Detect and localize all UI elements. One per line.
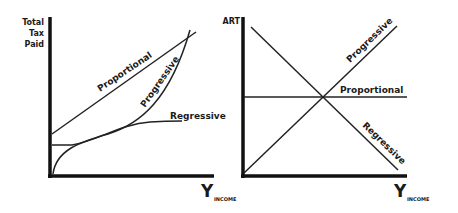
right-regressive-label: Regressive bbox=[361, 120, 408, 166]
right-progressive-line bbox=[244, 26, 397, 173]
right-ylabel: ART bbox=[223, 17, 241, 26]
left-regressive-curve bbox=[52, 121, 182, 145]
left-regressive-label: Regressive bbox=[170, 111, 226, 121]
left-ylabel-line2: Tax bbox=[29, 29, 45, 38]
left-ylabel-line1: Total bbox=[22, 18, 44, 27]
right-regressive-line bbox=[251, 27, 398, 170]
right-xlabel-y: Y bbox=[393, 181, 407, 201]
right-proportional-label: Proportional bbox=[340, 85, 403, 95]
left-xlabel-y: Y bbox=[200, 181, 214, 201]
left-ylabel-line3: Paid bbox=[24, 40, 44, 49]
right-xlabel-income: INCOME bbox=[407, 196, 430, 202]
right-chart: ART Progressive Proportional Regressive … bbox=[223, 16, 430, 202]
left-proportional-label: Proportional bbox=[96, 50, 154, 94]
left-xlabel-income: INCOME bbox=[214, 196, 237, 202]
tax-diagrams: Total Tax Paid Proportional Progressive … bbox=[0, 0, 458, 213]
left-chart: Total Tax Paid Proportional Progressive … bbox=[22, 17, 237, 202]
right-progressive-label: Progressive bbox=[344, 16, 394, 65]
